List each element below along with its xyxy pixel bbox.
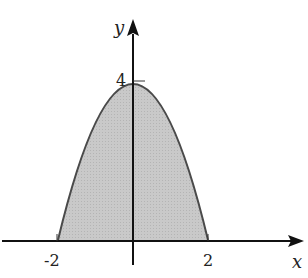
parabola-chart: y 4 -2 2 x (0, 0, 308, 278)
tick-label-4: 4 (116, 71, 126, 90)
y-axis-arrow-icon (127, 19, 139, 36)
y-axis-label: y (113, 17, 125, 38)
tick-label-2: 2 (203, 251, 213, 270)
x-axis-label: x (292, 251, 302, 272)
tick-label-neg2: -2 (44, 251, 60, 270)
